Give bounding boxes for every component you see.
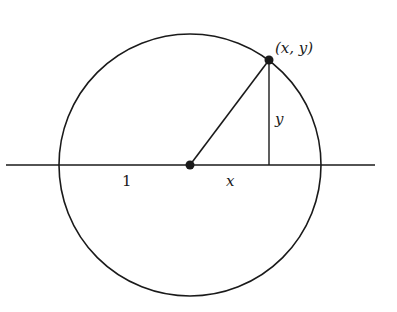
x-label: x bbox=[226, 172, 235, 190]
center-point bbox=[186, 161, 195, 170]
point-on-circle bbox=[265, 56, 274, 65]
radius-label: 1 bbox=[122, 172, 132, 190]
radius-line bbox=[190, 60, 269, 165]
point-label: (x, y) bbox=[275, 39, 313, 57]
unit-circle-diagram: (x, y) 1 x y bbox=[0, 0, 397, 312]
y-label: y bbox=[274, 110, 284, 128]
